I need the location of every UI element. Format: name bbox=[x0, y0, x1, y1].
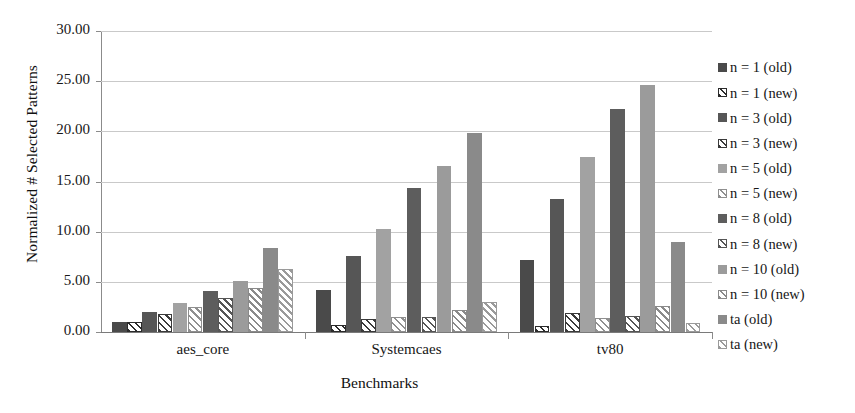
legend-item-n-5-new-[interactable]: n = 5 (new) bbox=[718, 181, 853, 206]
legend-item-n-8-new-[interactable]: n = 8 (new) bbox=[718, 231, 853, 256]
bar-series-container bbox=[101, 31, 712, 332]
legend-label: ta (new) bbox=[730, 337, 778, 352]
legend-label: n = 8 (old) bbox=[730, 211, 792, 226]
legend-label: n = 1 (new) bbox=[730, 86, 797, 101]
bar-Systemcaes-n-3-new- bbox=[361, 319, 376, 332]
x-group-divider-2 bbox=[508, 332, 509, 339]
bar-tv80-n-1-old- bbox=[520, 260, 535, 332]
bar-aes_core-n-8-old- bbox=[203, 291, 218, 332]
bar-Systemcaes-n-1-new- bbox=[331, 325, 346, 332]
bar-Systemcaes-n-3-old- bbox=[346, 256, 361, 332]
y-tick-label-25: 25.00 bbox=[18, 71, 90, 88]
legend-label: n = 8 (new) bbox=[730, 237, 797, 252]
x-tick-label-Systemcaes: Systemcaes bbox=[327, 341, 487, 358]
bar-aes_core-n-1-new- bbox=[127, 322, 142, 332]
legend-item-n-10-old-[interactable]: n = 10 (old) bbox=[718, 257, 853, 282]
y-tick-label-0: 0.00 bbox=[18, 322, 90, 339]
legend-swatch-icon bbox=[718, 315, 727, 324]
bar-Systemcaes-n-5-old- bbox=[376, 229, 391, 332]
legend-swatch-icon bbox=[718, 164, 727, 173]
x-axis-title: Benchmarks bbox=[0, 374, 855, 392]
bar-tv80-n-10-new- bbox=[655, 306, 670, 332]
legend-swatch-icon bbox=[718, 63, 727, 72]
legend-item-n-8-old-[interactable]: n = 8 (old) bbox=[718, 206, 853, 231]
chart-legend: n = 1 (old)n = 1 (new)n = 3 (old)n = 3 (… bbox=[718, 55, 853, 357]
y-tick-label-15: 15.00 bbox=[18, 172, 90, 189]
legend-swatch-icon bbox=[718, 265, 727, 274]
bar-tv80-n-5-new- bbox=[595, 318, 610, 332]
legend-item-ta-old-[interactable]: ta (old) bbox=[718, 307, 853, 332]
bar-aes_core-n-5-new- bbox=[188, 307, 203, 332]
bar-aes_core-n-10-old- bbox=[233, 281, 248, 332]
legend-label: ta (old) bbox=[730, 312, 772, 327]
y-tick-label-5: 5.00 bbox=[18, 272, 90, 289]
legend-label: n = 3 (old) bbox=[730, 111, 792, 126]
y-tick-label-30: 30.00 bbox=[18, 21, 90, 38]
y-tick-label-20: 20.00 bbox=[18, 121, 90, 138]
bar-aes_core-n-8-new- bbox=[218, 298, 233, 332]
legend-swatch-icon bbox=[718, 239, 727, 248]
legend-label: n = 3 (new) bbox=[730, 136, 797, 151]
bar-aes_core-n-10-new- bbox=[248, 288, 263, 332]
legend-item-n-1-new-[interactable]: n = 1 (new) bbox=[718, 80, 853, 105]
bar-Systemcaes-n-5-new- bbox=[391, 317, 406, 332]
legend-swatch-icon bbox=[718, 139, 727, 148]
legend-item-ta-new-[interactable]: ta (new) bbox=[718, 332, 853, 357]
x-group-divider-1 bbox=[305, 332, 306, 339]
bar-Systemcaes-n-8-new- bbox=[422, 317, 437, 332]
legend-item-n-5-old-[interactable]: n = 5 (old) bbox=[718, 156, 853, 181]
legend-swatch-icon bbox=[718, 290, 727, 299]
legend-swatch-icon bbox=[718, 88, 727, 97]
legend-item-n-3-new-[interactable]: n = 3 (new) bbox=[718, 131, 853, 156]
plot-area bbox=[101, 31, 712, 332]
bar-tv80-ta-old- bbox=[671, 242, 686, 332]
x-axis-title-text: Benchmarks bbox=[341, 374, 418, 391]
x-tick-label-tv80: tv80 bbox=[530, 341, 690, 358]
bar-tv80-n-10-old- bbox=[640, 85, 655, 332]
bar-tv80-n-1-new- bbox=[535, 326, 550, 332]
bar-Systemcaes-n-1-old- bbox=[316, 290, 331, 332]
legend-swatch-icon bbox=[718, 340, 727, 349]
bar-aes_core-n-3-new- bbox=[158, 314, 173, 332]
gridline-0 bbox=[101, 332, 712, 333]
bar-tv80-ta-new- bbox=[686, 323, 701, 332]
bar-tv80-n-3-new- bbox=[565, 313, 580, 332]
bar-tv80-n-8-old- bbox=[610, 109, 625, 332]
legend-item-n-10-new-[interactable]: n = 10 (new) bbox=[718, 282, 853, 307]
bar-tv80-n-8-new- bbox=[625, 316, 640, 332]
bar-Systemcaes-n-10-new- bbox=[452, 310, 467, 332]
bar-Systemcaes-n-10-old- bbox=[437, 166, 452, 332]
y-tick-label-10: 10.00 bbox=[18, 222, 90, 239]
bar-aes_core-n-5-old- bbox=[173, 303, 188, 332]
x-axis-end-tick bbox=[712, 332, 713, 339]
legend-swatch-icon bbox=[718, 214, 727, 223]
legend-label: n = 5 (new) bbox=[730, 186, 797, 201]
legend-label: n = 5 (old) bbox=[730, 161, 792, 176]
bar-tv80-n-5-old- bbox=[580, 157, 595, 332]
legend-item-n-1-old-[interactable]: n = 1 (old) bbox=[718, 55, 853, 80]
bar-aes_core-n-1-old- bbox=[112, 322, 127, 332]
bar-aes_core-n-3-old- bbox=[142, 312, 157, 332]
bar-chart: Normalized # Selected Patterns 0.005.001… bbox=[0, 0, 855, 413]
legend-item-n-3-old-[interactable]: n = 3 (old) bbox=[718, 105, 853, 130]
legend-label: n = 10 (new) bbox=[730, 287, 805, 302]
bar-Systemcaes-n-8-old- bbox=[407, 188, 422, 332]
bar-aes_core-ta-old- bbox=[263, 248, 278, 332]
bar-Systemcaes-ta-old- bbox=[467, 133, 482, 332]
bar-tv80-n-3-old- bbox=[550, 199, 565, 332]
bar-Systemcaes-ta-new- bbox=[482, 302, 497, 332]
bar-aes_core-ta-new- bbox=[278, 269, 293, 332]
legend-swatch-icon bbox=[718, 113, 727, 122]
x-tick-label-aes_core: aes_core bbox=[123, 341, 283, 358]
legend-swatch-icon bbox=[718, 189, 727, 198]
legend-label: n = 1 (old) bbox=[730, 60, 792, 75]
legend-label: n = 10 (old) bbox=[730, 262, 799, 277]
